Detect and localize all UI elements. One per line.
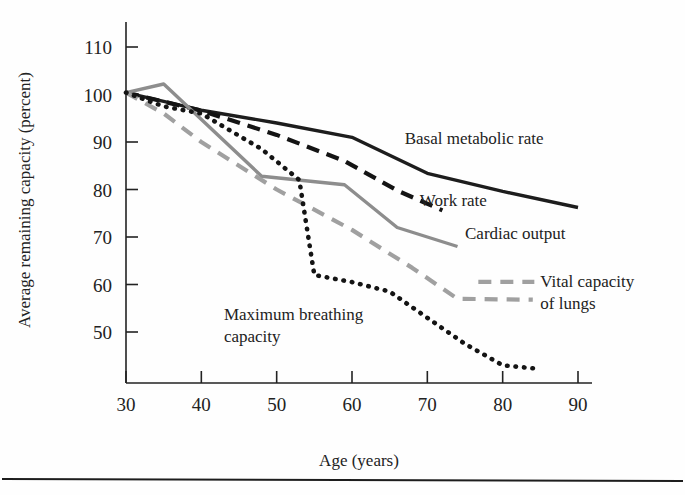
y-tick-label: 90 [93,132,112,153]
series-label-cardiac-output: Cardiac output [465,224,566,243]
series-label-vital-capacity-of-lungs: Vital capacity [540,272,634,291]
x-tick-label: 50 [267,394,286,415]
x-tick-label: 60 [343,394,362,415]
x-axis-title: Age (years) [319,451,399,470]
y-tick-label: 50 [93,322,112,343]
series-label-maximum-breathing-capacity-line2: capacity [224,327,281,346]
y-tick-label: 70 [93,227,112,248]
y-tick-label: 110 [84,37,112,58]
axes: 5060708090100110 30405060708090 [84,22,593,415]
series-label-work-rate: Work rate [420,191,487,210]
y-axis-title: Average remaining capacity (percent) [15,72,34,328]
x-axis-ticks: 30405060708090 [117,371,588,415]
footer-rule [2,479,683,481]
y-axis-ticks: 5060708090100110 [84,37,139,343]
x-tick-label: 90 [569,394,588,415]
x-tick-label: 80 [493,394,512,415]
series-label-basal-metabolic-rate: Basal metabolic rate [405,129,544,148]
x-tick-label: 30 [117,394,136,415]
series-label-vital-capacity-of-lungs-line2: of lungs [540,294,595,313]
series-label-maximum-breathing-capacity: Maximum breathing [224,305,364,324]
x-tick-label: 70 [418,394,437,415]
y-tick-label: 60 [93,275,112,296]
line-chart: 5060708090100110 30405060708090 Basal me… [0,0,685,495]
y-tick-label: 100 [84,85,113,106]
figure-root: 5060708090100110 30405060708090 Basal me… [0,0,685,495]
x-tick-label: 40 [192,394,211,415]
y-tick-label: 80 [93,180,112,201]
